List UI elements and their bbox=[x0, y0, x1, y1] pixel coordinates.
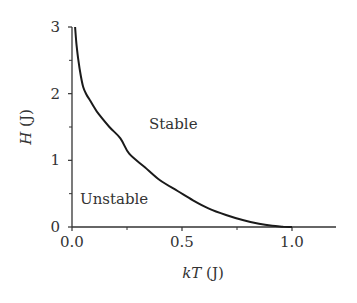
stability-chart: 0.00.51.00123 Stable Unstable kT (J) H (… bbox=[0, 0, 357, 303]
y-tick-label: 3 bbox=[50, 18, 60, 36]
y-tick-label: 0 bbox=[50, 218, 60, 236]
y-tick-label: 1 bbox=[50, 151, 60, 169]
y-axis-label: H (J) bbox=[17, 109, 35, 146]
x-tick-label: 1.0 bbox=[280, 233, 304, 251]
tick-labels: 0.00.51.00123 bbox=[50, 18, 303, 251]
stable-region-label: Stable bbox=[149, 115, 198, 133]
unstable-region-label: Unstable bbox=[80, 190, 148, 208]
x-tick-label: 0.5 bbox=[170, 233, 194, 251]
x-tick-label: 0.0 bbox=[60, 233, 84, 251]
y-tick-label: 2 bbox=[50, 85, 60, 103]
x-axis-label: kT (J) bbox=[182, 264, 224, 282]
